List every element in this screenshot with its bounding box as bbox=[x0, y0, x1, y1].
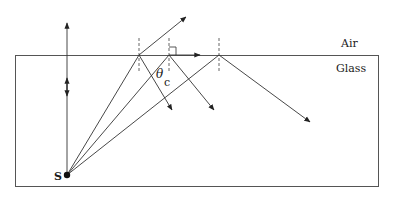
glass-label: Glass bbox=[336, 62, 367, 75]
source-label: S bbox=[54, 170, 62, 183]
air-label: Air bbox=[340, 37, 358, 50]
critical-angle-theta: θ bbox=[156, 67, 164, 81]
reflected-ray-3 bbox=[219, 55, 310, 122]
incident-ray-1 bbox=[67, 55, 139, 175]
incident-ray-3 bbox=[67, 55, 219, 175]
reflected-ray-critical bbox=[169, 55, 214, 110]
critical-angle-subscript: c bbox=[164, 76, 170, 89]
incident-ray-critical bbox=[67, 55, 169, 175]
source-point bbox=[64, 172, 70, 178]
right-angle-mark bbox=[169, 47, 176, 55]
total-internal-reflection-diagram: S θ c Air Glass bbox=[0, 0, 394, 197]
refracted-ray-1 bbox=[139, 17, 186, 55]
glass-block bbox=[16, 56, 379, 187]
